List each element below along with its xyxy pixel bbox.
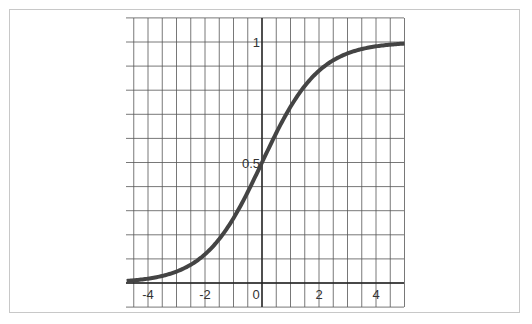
x-tick-label: 0 (252, 287, 259, 302)
y-tick-label: 1 (253, 35, 260, 50)
x-tick-label: 2 (315, 287, 322, 302)
x-tick-label: 4 (372, 287, 379, 302)
x-tick-label: -4 (142, 287, 154, 302)
y-tick-labels: 0.51 (242, 35, 260, 171)
x-tick-labels: -4-2024 (142, 287, 379, 302)
x-tick-label: -2 (199, 287, 211, 302)
horizontal-gridlines (126, 18, 404, 307)
sigmoid-chart: -4-2024 0.51 (0, 0, 532, 324)
